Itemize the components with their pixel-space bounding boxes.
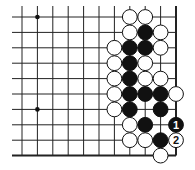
black-stone xyxy=(122,40,137,55)
white-stone xyxy=(122,133,137,148)
black-stone xyxy=(122,87,137,102)
black-stone xyxy=(138,40,153,55)
white-stone xyxy=(138,71,153,86)
white-stone xyxy=(107,102,122,117)
star-point xyxy=(35,15,40,20)
black-stone xyxy=(153,102,168,117)
black-stone xyxy=(122,71,137,86)
white-stone xyxy=(107,40,122,55)
white-stone xyxy=(122,25,137,40)
black-stone xyxy=(138,25,153,40)
white-stone xyxy=(153,71,168,86)
white-stone xyxy=(107,71,122,86)
black-stone xyxy=(122,102,137,117)
black-stone xyxy=(122,56,137,71)
white-stone xyxy=(138,133,153,148)
move-number-label: 1 xyxy=(173,119,179,131)
black-stone xyxy=(153,87,168,102)
white-stone xyxy=(153,40,168,55)
go-board: 12 xyxy=(0,0,195,170)
black-stone xyxy=(153,133,168,148)
move-number-label: 2 xyxy=(173,134,179,146)
white-stone xyxy=(153,148,168,163)
white-stone xyxy=(107,87,122,102)
white-stone xyxy=(138,56,153,71)
white-stone xyxy=(169,87,184,102)
star-point xyxy=(35,107,40,112)
black-stone xyxy=(138,87,153,102)
white-stone xyxy=(153,25,168,40)
white-stone xyxy=(122,10,137,25)
white-stone xyxy=(122,117,137,132)
black-stone xyxy=(138,117,153,132)
white-stone xyxy=(138,10,153,25)
white-stone xyxy=(107,56,122,71)
